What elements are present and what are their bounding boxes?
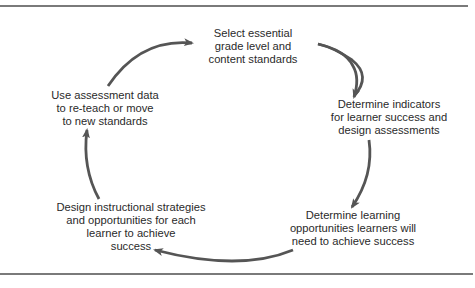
node-line: grade level and bbox=[197, 40, 309, 53]
node-line: to new standards bbox=[50, 115, 160, 128]
node-line: Select essential bbox=[197, 27, 309, 40]
node-line: Determine learning bbox=[286, 209, 420, 222]
node-line: and opportunities for each bbox=[56, 214, 206, 227]
node-determine-opportunities: Determine learning opportunities learner… bbox=[286, 209, 420, 248]
node-line: Use assessment data bbox=[50, 89, 160, 102]
node-line: success bbox=[56, 240, 206, 253]
node-line: for learner success and bbox=[322, 111, 456, 124]
node-line: Determine indicators bbox=[322, 98, 456, 111]
node-select-standards: Select essential grade level and content… bbox=[197, 27, 309, 66]
node-line: Design instructional strategies bbox=[56, 201, 206, 214]
node-determine-indicators: Determine indicators for learner success… bbox=[322, 98, 456, 137]
node-line: learner to achieve bbox=[56, 227, 206, 240]
node-design-strategies: Design instructional strategies and oppo… bbox=[56, 201, 206, 253]
node-line: design assessments bbox=[322, 124, 456, 137]
node-line: opportunities learners will bbox=[286, 222, 420, 235]
node-use-assessment-data: Use assessment data to re-teach or move … bbox=[50, 89, 160, 128]
node-line: to re-teach or move bbox=[50, 102, 160, 115]
node-line: need to achieve success bbox=[286, 235, 420, 248]
node-line: content standards bbox=[197, 53, 309, 66]
